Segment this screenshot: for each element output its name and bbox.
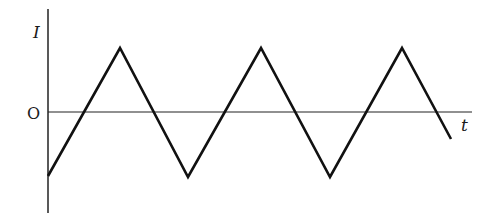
current-time-diagram: I O t (0, 0, 495, 220)
x-axis-label: t (461, 115, 468, 135)
origin-label: O (27, 104, 40, 123)
y-axis-label: I (32, 22, 40, 42)
